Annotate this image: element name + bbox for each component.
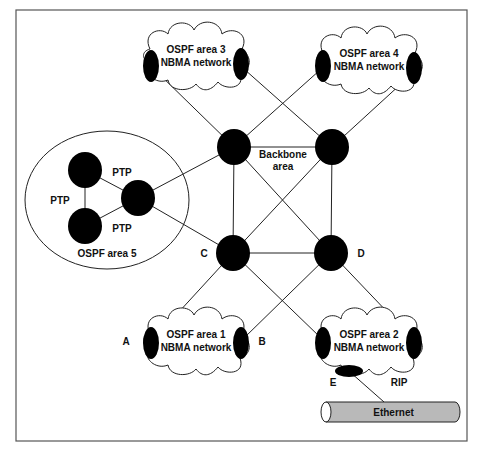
ptp-label: PTP	[112, 167, 132, 178]
cloud-subtitle: NBMA network	[161, 342, 232, 353]
router-node	[233, 327, 249, 359]
router-node	[406, 327, 422, 359]
cloud-title: OSPF area 2	[340, 329, 399, 340]
router-node	[315, 50, 331, 82]
area5-router	[121, 180, 155, 216]
router-node	[143, 50, 159, 82]
backbone-router-bb-tl	[217, 129, 251, 165]
cloud-title: OSPF area 1	[167, 329, 226, 340]
ospf-network-diagram: Ethernet OSPF area 3NBMA networkOSPF are…	[0, 0, 479, 453]
area5-label: OSPF area 5	[78, 248, 137, 259]
rip-label: RIP	[391, 377, 408, 388]
cloud-title: OSPF area 3	[167, 44, 226, 55]
router-label-c: C	[200, 248, 207, 259]
cloud-shape	[144, 22, 250, 90]
cloud-subtitle: NBMA network	[334, 61, 405, 72]
backbone-label-area: area	[273, 161, 294, 172]
ptp-label: PTP	[112, 223, 132, 234]
cloud-area4	[317, 26, 423, 94]
ethernet-segment: Ethernet	[321, 402, 460, 422]
backbone-router-C	[216, 235, 250, 271]
router-node-e	[335, 365, 363, 377]
cloud-subtitle: NBMA network	[334, 342, 405, 353]
router-node	[233, 48, 249, 80]
area5-router	[68, 208, 102, 244]
cloud-area3	[144, 22, 250, 90]
router-label-a: A	[122, 336, 129, 347]
backbone-router-D	[314, 235, 348, 271]
ethernet-pipe-end	[321, 402, 331, 422]
cloud-shape	[317, 26, 423, 94]
router-label-d: D	[357, 248, 364, 259]
area5-router	[68, 152, 102, 188]
router-node	[315, 327, 331, 359]
ethernet-label: Ethernet	[373, 407, 414, 418]
router-node	[406, 52, 422, 84]
router-label-b: B	[258, 336, 265, 347]
backbone-label: Backbone	[259, 149, 307, 160]
cloud-title: OSPF area 4	[340, 48, 399, 59]
cloud-subtitle: NBMA network	[161, 57, 232, 68]
ptp-label: PTP	[50, 195, 70, 206]
router-node	[143, 327, 159, 359]
backbone-router-bb-tr	[315, 129, 349, 165]
router-label-e: E	[330, 377, 337, 388]
